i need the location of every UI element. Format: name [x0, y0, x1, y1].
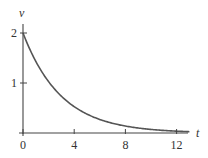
y-tick-label: 1	[11, 76, 17, 90]
y-axis-label: v	[19, 6, 25, 20]
x-tick-label: 4	[71, 138, 77, 152]
x-tick-label: 0	[20, 138, 26, 152]
x-tick-label: 8	[122, 138, 128, 152]
x-axis-label: t	[196, 126, 200, 140]
decay-curve	[23, 33, 189, 132]
x-tick-label: 12	[171, 138, 183, 152]
decay-chart: 0481212 t v	[0, 0, 208, 158]
y-tick-label: 2	[11, 26, 17, 40]
axes	[19, 24, 188, 136]
